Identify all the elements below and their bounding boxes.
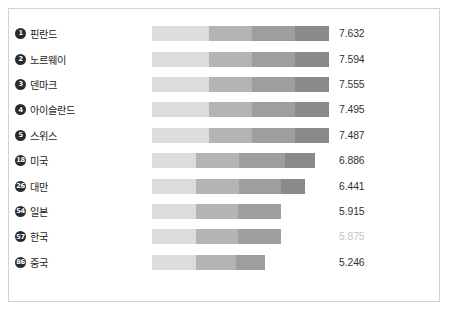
stacked-bar xyxy=(152,153,315,168)
chart-row: 54일본5.915 xyxy=(9,199,439,224)
bar-segment xyxy=(209,52,252,67)
bar-segment xyxy=(152,77,209,92)
row-label: 1핀란드 xyxy=(15,26,150,41)
value-label: 7.495 xyxy=(339,104,365,115)
value-label: 7.594 xyxy=(339,54,365,65)
chart-row: 3덴마크7.555 xyxy=(9,72,439,97)
bar-segment xyxy=(152,102,209,117)
country-label: 핀란드 xyxy=(30,26,57,41)
bar-segment xyxy=(152,255,196,270)
value-label: 7.632 xyxy=(339,28,365,39)
stacked-bar xyxy=(152,102,329,117)
stacked-bar xyxy=(152,179,305,194)
bar-segment xyxy=(295,102,329,117)
rank-badge-icon: 54 xyxy=(15,206,26,217)
bar-segment xyxy=(196,153,239,168)
country-label: 아이슬란드 xyxy=(30,102,75,117)
bar-segment xyxy=(238,229,281,244)
bar-segment xyxy=(196,255,236,270)
stacked-bar xyxy=(152,128,329,143)
country-label: 한국 xyxy=(30,229,48,244)
bar-segment xyxy=(209,128,252,143)
stacked-bar xyxy=(152,204,281,219)
stacked-bar xyxy=(152,255,265,270)
bar-segment xyxy=(239,179,281,194)
country-label: 일본 xyxy=(30,204,48,219)
chart-row: 5스위스7.487 xyxy=(9,123,439,148)
value-label: 6.441 xyxy=(339,181,365,192)
value-label: 6.886 xyxy=(339,155,365,166)
chart-row: 86중국5.246 xyxy=(9,250,439,275)
bar-segment xyxy=(209,102,252,117)
bar-segment xyxy=(295,128,329,143)
bar-segment xyxy=(196,204,238,219)
bar-segment xyxy=(196,179,239,194)
row-label: 54일본 xyxy=(15,204,150,219)
chart-rows: 1핀란드7.6322노르웨이7.5943덴마크7.5554아이슬란드7.4955… xyxy=(9,21,439,275)
chart-row: 1핀란드7.632 xyxy=(9,21,439,46)
bar-segment xyxy=(152,128,209,143)
chart-row: 4아이슬란드7.495 xyxy=(9,97,439,122)
value-label: 7.555 xyxy=(339,79,365,90)
rank-badge-icon: 57 xyxy=(15,231,26,242)
chart-row: 18미국6.886 xyxy=(9,148,439,173)
row-label: 86중국 xyxy=(15,255,150,270)
bar-segment xyxy=(295,52,329,67)
row-label: 4아이슬란드 xyxy=(15,102,150,117)
row-label: 2노르웨이 xyxy=(15,52,150,67)
bar-segment xyxy=(152,153,196,168)
chart-row: 57한국5.875 xyxy=(9,224,439,249)
rank-badge-icon: 2 xyxy=(15,54,26,65)
bar-segment xyxy=(152,26,209,41)
bar-segment xyxy=(152,52,209,67)
chart-frame: 1핀란드7.6322노르웨이7.5943덴마크7.5554아이슬란드7.4955… xyxy=(8,8,440,302)
bar-segment xyxy=(281,179,305,194)
rank-badge-icon: 86 xyxy=(15,257,26,268)
bar-segment xyxy=(252,52,295,67)
value-label: 7.487 xyxy=(339,130,365,141)
country-label: 미국 xyxy=(30,153,48,168)
rank-badge-icon: 5 xyxy=(15,130,26,141)
bar-segment xyxy=(295,26,329,41)
country-label: 덴마크 xyxy=(30,77,57,92)
bar-segment xyxy=(209,26,252,41)
bar-segment xyxy=(238,204,281,219)
bar-segment xyxy=(252,26,295,41)
bar-segment xyxy=(239,153,285,168)
stacked-bar xyxy=(152,229,281,244)
country-label: 중국 xyxy=(30,255,48,270)
bar-segment xyxy=(295,77,329,92)
row-label: 26대만 xyxy=(15,179,150,194)
row-label: 5스위스 xyxy=(15,128,150,143)
rank-badge-icon: 26 xyxy=(15,181,26,192)
chart-row: 2노르웨이7.594 xyxy=(9,46,439,71)
rank-badge-icon: 3 xyxy=(15,79,26,90)
bar-segment xyxy=(252,102,295,117)
stacked-bar xyxy=(152,26,329,41)
bar-segment xyxy=(285,153,315,168)
stacked-bar xyxy=(152,52,329,67)
bar-segment xyxy=(252,77,295,92)
value-label: 5.246 xyxy=(339,257,365,268)
bar-segment xyxy=(152,229,196,244)
rank-badge-icon: 4 xyxy=(15,104,26,115)
bar-segment xyxy=(196,229,238,244)
value-label: 5.875 xyxy=(339,231,365,242)
row-label: 57한국 xyxy=(15,229,150,244)
rank-badge-icon: 1 xyxy=(15,28,26,39)
value-label: 5.915 xyxy=(339,206,365,217)
chart-row: 26대만6.441 xyxy=(9,173,439,198)
row-label: 3덴마크 xyxy=(15,77,150,92)
country-label: 스위스 xyxy=(30,128,57,143)
stacked-bar xyxy=(152,77,329,92)
bar-segment xyxy=(252,128,295,143)
bar-segment xyxy=(209,77,252,92)
bar-segment xyxy=(152,204,196,219)
country-label: 노르웨이 xyxy=(30,52,66,67)
bar-segment xyxy=(152,179,196,194)
rank-badge-icon: 18 xyxy=(15,155,26,166)
country-label: 대만 xyxy=(30,179,48,194)
bar-segment xyxy=(236,255,265,270)
row-label: 18미국 xyxy=(15,153,150,168)
